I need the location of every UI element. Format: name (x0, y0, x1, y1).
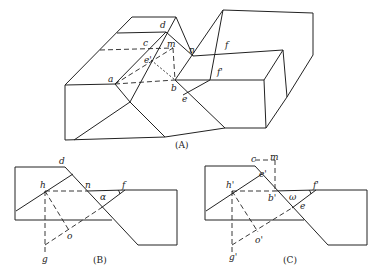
b-dashed-g-bed (45, 208, 101, 245)
label-b-o: o (67, 231, 73, 241)
label-c-m: m (270, 152, 279, 162)
label-b-g: g (42, 254, 48, 264)
left-block-front-top (65, 84, 115, 85)
b-dashed-h-o (45, 191, 70, 232)
label-d: d (160, 20, 166, 30)
label-c-h-prime: h' (226, 180, 234, 190)
figure-c: c m e' h' b' ω f' e o' g' (C) (205, 152, 367, 265)
label-c-e-prime: e' (259, 169, 267, 179)
label-a: a (108, 74, 113, 84)
fault-line-lower (130, 102, 165, 137)
fault-geometry-diagram: a b c d m n e' e f f' (A) d h n α f g o … (0, 0, 373, 272)
dashed-c-m (100, 48, 173, 50)
label-e: e (182, 94, 187, 104)
caption-a: (A) (175, 140, 189, 150)
b-left-block (15, 167, 112, 220)
label-b-h: h (40, 180, 46, 190)
label-e-prime: e' (144, 55, 152, 65)
label-b: b (171, 83, 177, 93)
line-fprime-e (183, 80, 210, 95)
c-fault-and-right-block (255, 166, 367, 245)
label-c-e: e (300, 201, 305, 211)
bottom-v-right (165, 128, 225, 137)
caption-b: (B) (93, 255, 107, 265)
fault-line-ad (115, 32, 166, 84)
fault-line-a-down (115, 84, 130, 102)
line-b-down (175, 80, 225, 128)
dashed-a-b (115, 80, 175, 84)
label-c-o-prime: o' (255, 235, 263, 245)
right-block-side-edge (283, 50, 287, 97)
right-block-top-divider (193, 50, 283, 56)
label-b-n: n (85, 180, 91, 190)
label-b-d: d (59, 156, 65, 166)
c-dashed-h-o (232, 191, 258, 232)
right-block-front-face (190, 80, 266, 128)
dashed-a-m (115, 48, 173, 84)
label-b-alpha: α (100, 192, 106, 202)
figure-b: d h n α f g o (B) (15, 156, 177, 265)
left-block-top-divider (117, 32, 166, 33)
figure-a: a b c d m n e' e f f' (A) (65, 10, 313, 150)
label-f-prime: f' (216, 67, 223, 77)
fault-line-crest (130, 17, 176, 102)
label-c-c: c (251, 154, 256, 164)
label-c-f-prime: f' (312, 180, 319, 190)
label-c-omega: ω (289, 192, 297, 202)
left-block-bed-line (74, 102, 130, 140)
label-c-g-prime: g' (229, 252, 237, 262)
ridge-b-to-top (175, 10, 223, 80)
label-c-b-prime: b' (268, 193, 276, 203)
dotted-eprime-b (151, 60, 175, 80)
label-b-f: f (121, 180, 127, 190)
right-block-bottom-edge (266, 97, 287, 128)
label-m: m (167, 39, 176, 49)
dashed-m-b (173, 48, 175, 80)
right-block-diag (264, 50, 283, 80)
label-c: c (143, 38, 148, 48)
caption-c: (C) (283, 255, 297, 265)
b-fault-and-right-block (65, 167, 177, 245)
label-n: n (189, 45, 195, 55)
label-f: f (224, 40, 230, 50)
